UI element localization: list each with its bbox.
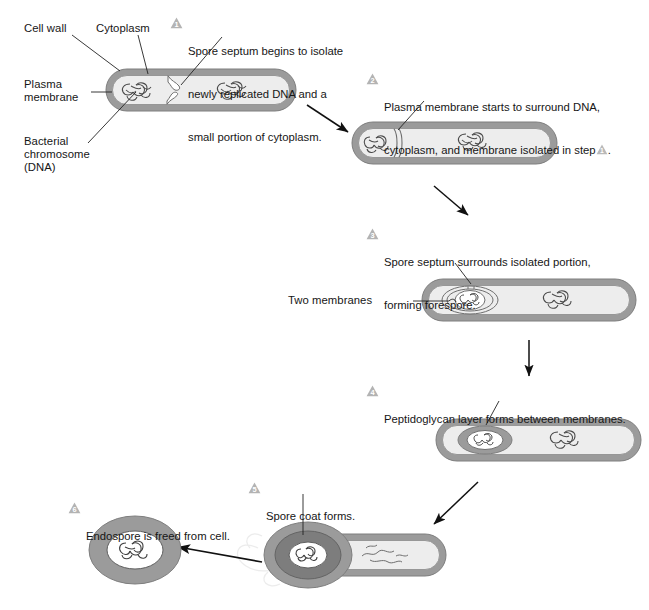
label-two-membranes: Two membranes <box>288 294 372 308</box>
label-plasma-membrane-line2: membrane <box>24 91 78 105</box>
label-bacterial-chromosome-line3: (DNA) <box>24 161 56 175</box>
step-1-line-1: Spore septum begins to isolate <box>188 44 343 58</box>
step-3-line-2: forming forespore. <box>384 298 591 312</box>
label-cytoplasm: Cytoplasm <box>96 22 150 36</box>
arrow-step4-to-step5 <box>434 482 478 524</box>
step-3-badge-icon: 3 <box>366 228 379 240</box>
step-4-badge-icon: 4 <box>366 385 379 397</box>
step-1-badge-icon: 1 <box>170 17 183 29</box>
step-3-badge-number: 3 <box>370 231 374 240</box>
step-6-badge-number: 6 <box>72 505 76 514</box>
step-2-badge-icon: 2 <box>366 73 379 85</box>
step-2-inline-step-ref-icon: 1 <box>596 144 608 155</box>
step-5-line-1: Spore coat forms. <box>266 509 355 523</box>
step-5-badge-icon: 5 <box>248 482 261 494</box>
step-3-line-1: Spore septum surrounds isolated portion, <box>384 255 591 269</box>
step-1-badge-number: 1 <box>174 20 178 29</box>
endospore-formation-diagram: Cell wall Cytoplasm Plasma membrane Bact… <box>0 0 649 610</box>
step-6-badge-icon: 6 <box>68 502 81 514</box>
step-2-line-2: cytoplasm, and membrane isolated in step <box>384 144 596 156</box>
step-6-line-1: Endospore is freed from cell. <box>86 529 230 543</box>
label-bacterial-chromosome-line2: chromosome <box>24 148 90 162</box>
step-2-badge-number: 2 <box>370 76 374 85</box>
label-plasma-membrane-line1: Plasma <box>24 78 62 92</box>
step-2-inline-ref-number: 1 <box>600 147 604 154</box>
step-2-line-1: Plasma membrane starts to surround DNA, <box>384 100 611 114</box>
step-4-line-1: Peptidoglycan layer forms between membra… <box>384 412 626 426</box>
arrow-step2-to-step3 <box>434 186 468 215</box>
step-2-trailing: . <box>608 144 611 156</box>
step-1-line-2: newly replicated DNA and a <box>188 87 343 101</box>
label-cell-wall: Cell wall <box>24 22 67 36</box>
step-2-line-2-wrap: cytoplasm, and membrane isolated in step… <box>384 143 611 157</box>
label-bacterial-chromosome-line1: Bacterial <box>24 135 68 149</box>
step-1-line-3: small portion of cytoplasm. <box>188 130 343 144</box>
step-5-badge-number: 5 <box>252 485 256 494</box>
